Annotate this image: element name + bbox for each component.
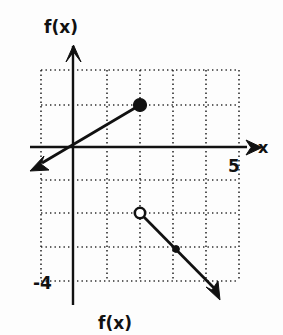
interior-point-dot <box>173 246 180 253</box>
open-endpoint-circle <box>135 208 145 218</box>
closed-endpoint-dot <box>134 99 147 112</box>
y-tick-label-minus-4: -4 <box>33 273 52 293</box>
y-axis-label: f(x) <box>44 17 78 37</box>
branch-1-ray <box>30 99 147 172</box>
x-tick-label-5: 5 <box>228 156 240 176</box>
bottom-caption: f(x) <box>98 313 132 333</box>
branch-1-arrowhead-left <box>30 156 49 171</box>
function-graph-svg: f(x) x 5 -4 f(x) <box>0 0 283 335</box>
branch-2-ray <box>135 208 220 300</box>
graph-figure: f(x) x 5 -4 f(x) <box>0 0 283 335</box>
x-axis-label: x <box>258 138 269 157</box>
branch-1-segment <box>42 105 140 163</box>
